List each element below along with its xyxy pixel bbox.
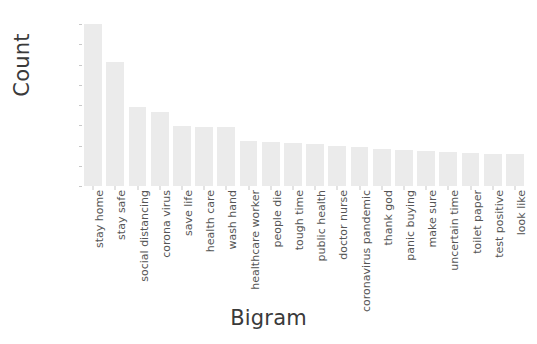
- x-axis-tick-label-text: save life: [182, 190, 195, 236]
- x-axis-tick-label-text: uncertain time: [448, 190, 461, 271]
- x-axis-tick-label-text: toilet paper: [471, 190, 484, 254]
- y-axis-tick-mark: [79, 186, 83, 187]
- x-axis-tick-label-text: tough time: [293, 190, 306, 250]
- y-axis-tick-mark: [79, 125, 83, 126]
- y-axis-tick-mark: [79, 65, 83, 66]
- y-axis-tick-mark: [79, 105, 83, 106]
- x-axis-tick-label-text: public health: [315, 190, 328, 261]
- x-axis-tick-label-text: people die: [271, 190, 284, 248]
- x-axis-tick-label-text: make sure: [426, 190, 439, 247]
- y-axis-tick-mark: [79, 166, 83, 167]
- x-axis-tick-label-text: test positive: [493, 190, 506, 258]
- x-axis-tick-label-text: doctor nurse: [337, 190, 350, 260]
- x-axis-tick-label-text: wash hand: [226, 190, 239, 250]
- x-axis-title: Bigram: [0, 306, 537, 330]
- y-axis-tick-mark: [79, 85, 83, 86]
- x-axis-tick-label-text: coronavirus pandemic: [360, 190, 373, 312]
- x-axis-tick-label-text: health care: [204, 190, 217, 252]
- x-axis-tick-label-text: look like: [515, 190, 528, 235]
- y-axis-tick-mark: [79, 24, 83, 25]
- x-axis-tick-label-text: panic buying: [404, 190, 417, 261]
- x-axis-tick-label-text: corona virus: [160, 190, 173, 258]
- x-axis-tick-label-text: stay safe: [115, 190, 128, 240]
- y-axis-tick-mark: [79, 44, 83, 45]
- x-axis-tick-label-text: stay home: [93, 190, 106, 248]
- x-axis-tick-label-text: thank god: [382, 190, 395, 246]
- y-axis-tick-mark: [79, 146, 83, 147]
- y-axis-title: Count: [9, 5, 35, 125]
- x-axis-tick-label-text: healthcare worker: [249, 190, 262, 290]
- bar-chart-figure: Count 0250050007500100001250015000175002…: [0, 0, 537, 344]
- x-axis-tick-label-text: social distancing: [138, 190, 151, 282]
